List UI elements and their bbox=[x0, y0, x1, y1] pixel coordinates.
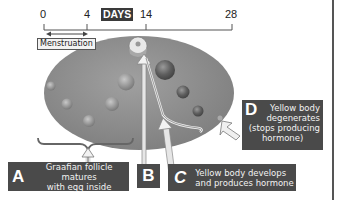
label-a-letter: A bbox=[12, 172, 24, 182]
tick-label-28: 28 bbox=[225, 8, 237, 20]
tick-label-4: 4 bbox=[84, 8, 90, 20]
label-c-letter: C bbox=[174, 173, 186, 183]
tick-label-14: 14 bbox=[140, 8, 152, 20]
days-axis-label: DAYS bbox=[101, 8, 133, 21]
label-c-text: Yellow body develops and produces hormon… bbox=[195, 168, 293, 188]
tick-label-0: 0 bbox=[40, 8, 46, 20]
frame-border bbox=[332, 0, 334, 200]
menstruation-label: Menstruation bbox=[37, 38, 96, 50]
label-b-letter: B bbox=[142, 171, 154, 181]
label-d-text: Yellow body degenerates (stops producing… bbox=[259, 103, 323, 143]
label-a: A Graafian follicle matures with egg ins… bbox=[8, 162, 129, 191]
label-b: B bbox=[137, 164, 160, 188]
label-a-text: Graafian follicle matures with egg insid… bbox=[29, 162, 129, 192]
label-c: C Yellow body develops and produces horm… bbox=[168, 164, 296, 191]
label-d-letter: D bbox=[245, 105, 257, 115]
label-d: D Yellow body degenerates (stops produci… bbox=[242, 100, 323, 150]
